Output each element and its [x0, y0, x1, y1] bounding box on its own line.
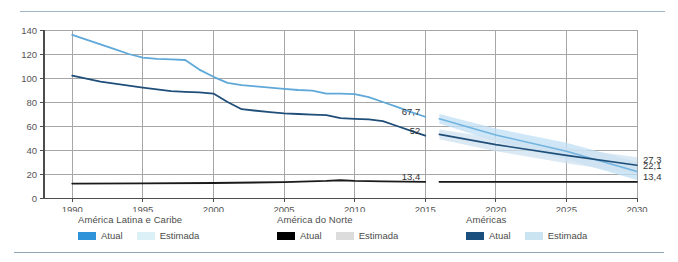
- legend-item-americas-atual[interactable]: Atual: [466, 230, 511, 241]
- legend-item-label: Estimada: [160, 230, 200, 241]
- svg-text:2015: 2015: [415, 204, 436, 212]
- legend-swatch-icon: [336, 232, 354, 240]
- legend-items: Atual Estimada: [277, 230, 398, 241]
- svg-text:0: 0: [32, 193, 37, 204]
- legend-item-label: Estimada: [548, 230, 588, 241]
- legend-item-label: Estimada: [359, 230, 399, 241]
- svg-text:67,7: 67,7: [402, 106, 421, 117]
- legend-item-lac-estimada[interactable]: Estimada: [137, 230, 200, 241]
- legend-group-americas: Américas Atual Estimada: [466, 214, 587, 241]
- chart-figure: 0204060801001201401990199520002005201020…: [0, 0, 678, 262]
- svg-text:100: 100: [21, 73, 37, 84]
- legend-swatch-icon: [466, 232, 484, 240]
- chart-legend: América Latina e Caribe Atual Estimada A…: [0, 214, 678, 252]
- svg-text:20: 20: [26, 169, 37, 180]
- legend-swatch-icon: [137, 232, 155, 240]
- svg-text:13,4: 13,4: [643, 171, 662, 182]
- svg-text:2005: 2005: [273, 204, 294, 212]
- svg-text:2020: 2020: [485, 204, 506, 212]
- svg-text:2010: 2010: [344, 204, 365, 212]
- svg-text:120: 120: [21, 49, 37, 60]
- svg-text:1990: 1990: [62, 204, 83, 212]
- svg-text:1995: 1995: [132, 204, 153, 212]
- legend-swatch-icon: [525, 232, 543, 240]
- legend-group-title: América Latina e Caribe: [78, 214, 199, 226]
- svg-text:2000: 2000: [203, 204, 224, 212]
- legend-item-americas-estimada[interactable]: Estimada: [525, 230, 588, 241]
- legend-item-label: Atual: [489, 230, 511, 241]
- svg-text:13,4: 13,4: [402, 171, 421, 182]
- svg-text:80: 80: [26, 97, 37, 108]
- svg-text:2030: 2030: [626, 204, 647, 212]
- svg-text:2025: 2025: [556, 204, 577, 212]
- legend-item-label: Atual: [300, 230, 322, 241]
- legend-group-america-latina-e-caribe: América Latina e Caribe Atual Estimada: [78, 214, 199, 241]
- svg-text:140: 140: [21, 25, 37, 36]
- legend-group-title: América do Norte: [277, 214, 398, 226]
- svg-text:22,1: 22,1: [643, 160, 662, 171]
- bottom-divider-rule: [14, 252, 664, 253]
- legend-item-norte-estimada[interactable]: Estimada: [336, 230, 399, 241]
- legend-swatch-icon: [78, 232, 96, 240]
- legend-swatch-icon: [277, 232, 295, 240]
- svg-text:60: 60: [26, 121, 37, 132]
- line-chart-svg: 0204060801001201401990199520002005201020…: [0, 0, 678, 212]
- svg-text:40: 40: [26, 145, 37, 156]
- legend-group-america-do-norte: América do Norte Atual Estimada: [277, 214, 398, 241]
- svg-text:52: 52: [410, 125, 421, 136]
- legend-item-label: Atual: [101, 230, 123, 241]
- legend-item-norte-atual[interactable]: Atual: [277, 230, 322, 241]
- legend-items: Atual Estimada: [78, 230, 199, 241]
- plot-area: 0204060801001201401990199520002005201020…: [0, 0, 678, 212]
- legend-item-lac-atual[interactable]: Atual: [78, 230, 123, 241]
- legend-group-title: Américas: [466, 214, 587, 226]
- legend-items: Atual Estimada: [466, 230, 587, 241]
